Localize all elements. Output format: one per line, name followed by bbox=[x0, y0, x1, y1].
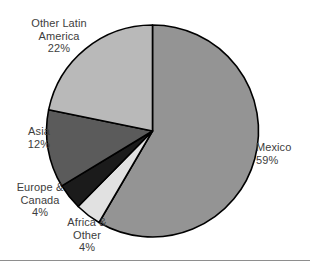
bottom-divider bbox=[0, 260, 310, 261]
pie-label-mexico: Mexico 59% bbox=[256, 141, 310, 166]
pie-label-other-latin-america: Other Latin America 22% bbox=[10, 17, 108, 55]
pie-label-africa-other: Africa & Other 4% bbox=[53, 216, 121, 254]
pie-chart: Other Latin America 22% Asia 12% Europe … bbox=[0, 0, 310, 269]
pie-label-europe-canada: Europe & Canada 4% bbox=[1, 181, 79, 219]
pie-label-asia: Asia 12% bbox=[8, 125, 70, 150]
